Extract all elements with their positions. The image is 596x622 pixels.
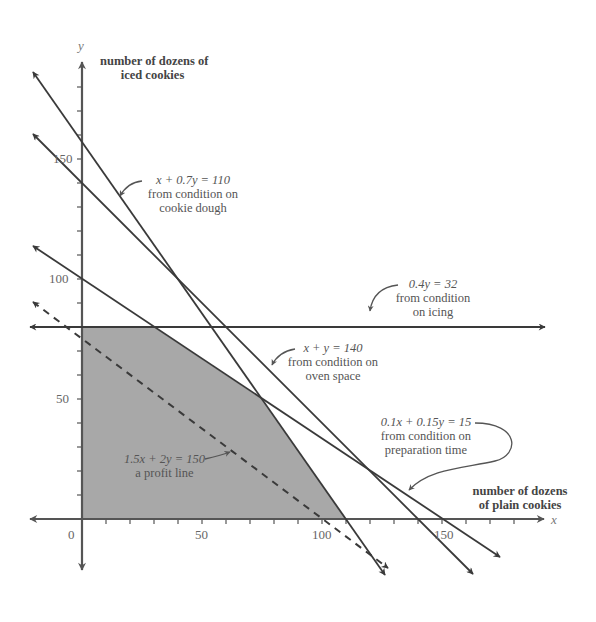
y-axis-title: number of dozens of iced cookies xyxy=(100,54,205,82)
preparation-time-label: 0.1x + 0.15y = 15 from condition on prep… xyxy=(380,415,472,457)
icing-label: 0.4y = 32 from condition on icing xyxy=(388,277,478,319)
y-tick-100: 100 xyxy=(49,271,69,287)
x-tick-100: 100 xyxy=(312,527,332,543)
oven-space-note1: from condition on xyxy=(283,355,383,369)
y-tick-50: 50 xyxy=(56,391,69,407)
lp-graph xyxy=(0,0,596,622)
cookie-dough-label: x + 0.7y = 110 from condition on cookie … xyxy=(138,173,248,215)
oven-space-note2: oven space xyxy=(283,369,383,383)
icing-note2: on icing xyxy=(388,305,478,319)
x-axis-title-line2: of plain cookies xyxy=(465,498,575,512)
x-axis-title: number of dozens of plain cookies xyxy=(465,484,575,512)
x-axis-title-line1: number of dozens xyxy=(465,484,575,498)
icing-equation: 0.4y = 32 xyxy=(388,277,478,291)
y-axis-title-line2: iced cookies xyxy=(100,68,205,82)
icing-note1: from condition xyxy=(388,291,478,305)
x-tick-150: 150 xyxy=(434,527,454,543)
y-axis-title-line1: number of dozens of xyxy=(100,54,205,68)
y-tick-150: 150 xyxy=(53,151,73,167)
cookie-dough-equation: x + 0.7y = 110 xyxy=(138,173,248,187)
x-axis-variable: x xyxy=(551,512,557,528)
preparation-time-note1: from condition on xyxy=(380,429,472,443)
x-tick-50: 50 xyxy=(195,527,208,543)
profit-line-note: a profit line xyxy=(122,466,207,480)
profit-line-label: 1.5x + 2y = 150 a profit line xyxy=(122,452,207,480)
profit-line-equation: 1.5x + 2y = 150 xyxy=(122,452,207,466)
oven-space-label: x + y = 140 from condition on oven space xyxy=(283,341,383,383)
preparation-time-equation: 0.1x + 0.15y = 15 xyxy=(380,415,472,429)
preparation-time-note2: preparation time xyxy=(380,443,472,457)
origin-label: 0 xyxy=(68,527,75,543)
cookie-dough-note1: from condition on xyxy=(138,187,248,201)
y-axis-variable: y xyxy=(78,38,84,54)
cookie-dough-note2: cookie dough xyxy=(138,201,248,215)
oven-space-equation: x + y = 140 xyxy=(283,341,383,355)
